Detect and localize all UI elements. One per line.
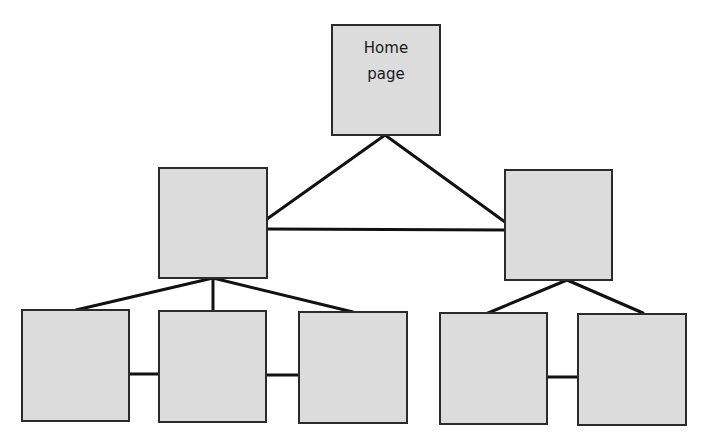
leaf-node-4 (439, 312, 548, 425)
home-page-label: Home page (364, 35, 408, 87)
home-page-node: Home page (331, 24, 441, 136)
leaf-node-1 (21, 309, 130, 422)
leaf-node-3 (298, 311, 408, 424)
edge-mid-right-leaf-4 (488, 280, 567, 313)
edge-mid-right-leaf-5 (567, 280, 643, 313)
site-structure-diagram: Home page (0, 0, 714, 445)
edge-mid-left-leaf-1 (76, 278, 213, 310)
edge-mid-left-mid-right (267, 229, 505, 230)
leaf-node-2 (158, 310, 267, 423)
leaf-node-5 (577, 313, 687, 426)
mid-right-node (504, 169, 613, 281)
edge-home-mid-right (385, 135, 505, 222)
edge-home-mid-left (267, 135, 385, 219)
mid-left-node (158, 167, 268, 279)
edge-mid-left-leaf-3 (213, 278, 353, 312)
